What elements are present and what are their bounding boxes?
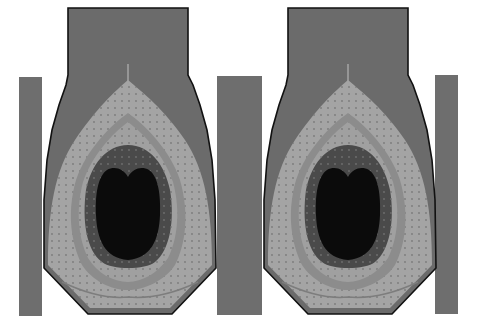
simulation-figure [0, 0, 481, 319]
core-zone [96, 168, 160, 260]
contour-plot-svg [0, 0, 481, 319]
panel-right [264, 8, 436, 314]
side-bar-left [19, 77, 42, 316]
side-bar-middle [217, 76, 262, 315]
core-zone [316, 168, 380, 260]
side-bar-right [435, 75, 458, 314]
panel-left [44, 8, 216, 314]
